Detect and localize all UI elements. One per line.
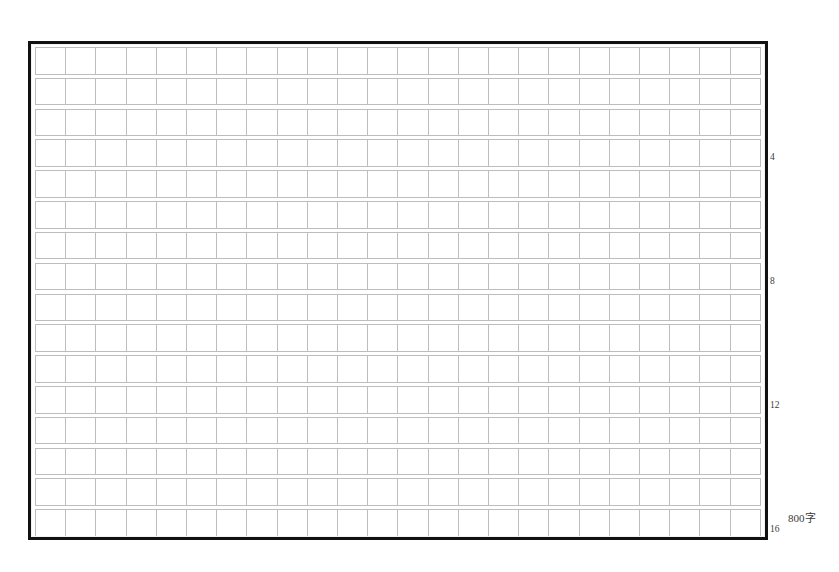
grid-cell[interactable]	[127, 479, 157, 505]
grid-cell[interactable]	[217, 295, 247, 321]
grid-cell[interactable]	[731, 479, 761, 505]
grid-cell[interactable]	[278, 233, 308, 259]
grid-cell[interactable]	[278, 449, 308, 475]
grid-cell[interactable]	[247, 449, 277, 475]
grid-cell[interactable]	[127, 356, 157, 382]
grid-cell[interactable]	[580, 325, 610, 351]
grid-cell[interactable]	[640, 110, 670, 136]
grid-cell[interactable]	[278, 202, 308, 228]
grid-cell[interactable]	[247, 479, 277, 505]
grid-cell[interactable]	[308, 356, 338, 382]
grid-cell[interactable]	[157, 48, 187, 74]
grid-cell[interactable]	[670, 110, 700, 136]
grid-cell[interactable]	[217, 202, 247, 228]
grid-cell[interactable]	[489, 79, 519, 105]
grid-cell[interactable]	[308, 325, 338, 351]
grid-cell[interactable]	[610, 48, 640, 74]
grid-cell[interactable]	[519, 202, 549, 228]
grid-cell[interactable]	[96, 325, 126, 351]
grid-cell[interactable]	[308, 48, 338, 74]
grid-cell[interactable]	[157, 264, 187, 290]
grid-cell[interactable]	[278, 140, 308, 166]
grid-cell[interactable]	[549, 79, 579, 105]
grid-cell[interactable]	[187, 449, 217, 475]
grid-cell[interactable]	[217, 387, 247, 413]
grid-cell[interactable]	[157, 449, 187, 475]
grid-cell[interactable]	[247, 264, 277, 290]
grid-cell[interactable]	[519, 110, 549, 136]
grid-cell[interactable]	[610, 356, 640, 382]
grid-cell[interactable]	[96, 418, 126, 444]
grid-cell[interactable]	[670, 264, 700, 290]
grid-cell[interactable]	[66, 356, 96, 382]
grid-cell[interactable]	[308, 387, 338, 413]
grid-cell[interactable]	[36, 79, 66, 105]
grid-cell[interactable]	[157, 479, 187, 505]
grid-cell[interactable]	[308, 171, 338, 197]
grid-cell[interactable]	[96, 233, 126, 259]
grid-cell[interactable]	[549, 510, 579, 536]
grid-cell[interactable]	[66, 449, 96, 475]
grid-cell[interactable]	[700, 479, 730, 505]
grid-cell[interactable]	[670, 171, 700, 197]
grid-cell[interactable]	[489, 510, 519, 536]
grid-cell[interactable]	[519, 264, 549, 290]
grid-cell[interactable]	[640, 387, 670, 413]
grid-cell[interactable]	[580, 140, 610, 166]
grid-cell[interactable]	[429, 510, 459, 536]
grid-cell[interactable]	[549, 387, 579, 413]
grid-cell[interactable]	[308, 264, 338, 290]
grid-cell[interactable]	[187, 202, 217, 228]
grid-cell[interactable]	[278, 48, 308, 74]
grid-cell[interactable]	[66, 264, 96, 290]
grid-cell[interactable]	[580, 449, 610, 475]
grid-cell[interactable]	[36, 449, 66, 475]
grid-cell[interactable]	[489, 418, 519, 444]
grid-cell[interactable]	[308, 110, 338, 136]
grid-cell[interactable]	[398, 387, 428, 413]
grid-cell[interactable]	[549, 264, 579, 290]
grid-cell[interactable]	[700, 356, 730, 382]
grid-cell[interactable]	[96, 171, 126, 197]
grid-cell[interactable]	[549, 356, 579, 382]
grid-cell[interactable]	[459, 479, 489, 505]
grid-cell[interactable]	[640, 449, 670, 475]
grid-cell[interactable]	[66, 510, 96, 536]
grid-cell[interactable]	[459, 48, 489, 74]
grid-cell[interactable]	[489, 479, 519, 505]
grid-cell[interactable]	[338, 140, 368, 166]
grid-cell[interactable]	[459, 510, 489, 536]
grid-cell[interactable]	[670, 202, 700, 228]
grid-cell[interactable]	[580, 387, 610, 413]
grid-cell[interactable]	[278, 325, 308, 351]
grid-cell[interactable]	[187, 418, 217, 444]
grid-cell[interactable]	[731, 295, 761, 321]
grid-cell[interactable]	[217, 479, 247, 505]
grid-cell[interactable]	[731, 48, 761, 74]
grid-cell[interactable]	[398, 295, 428, 321]
grid-cell[interactable]	[489, 171, 519, 197]
grid-cell[interactable]	[700, 233, 730, 259]
grid-cell[interactable]	[308, 479, 338, 505]
grid-cell[interactable]	[127, 510, 157, 536]
grid-cell[interactable]	[157, 202, 187, 228]
grid-cell[interactable]	[368, 202, 398, 228]
grid-cell[interactable]	[127, 418, 157, 444]
grid-cell[interactable]	[66, 48, 96, 74]
grid-cell[interactable]	[308, 418, 338, 444]
grid-cell[interactable]	[398, 418, 428, 444]
grid-cell[interactable]	[670, 449, 700, 475]
grid-cell[interactable]	[338, 79, 368, 105]
grid-cell[interactable]	[36, 140, 66, 166]
grid-cell[interactable]	[217, 449, 247, 475]
grid-cell[interactable]	[670, 295, 700, 321]
grid-cell[interactable]	[580, 202, 610, 228]
grid-cell[interactable]	[731, 110, 761, 136]
grid-cell[interactable]	[368, 110, 398, 136]
grid-cell[interactable]	[580, 418, 610, 444]
grid-cell[interactable]	[338, 325, 368, 351]
grid-cell[interactable]	[368, 449, 398, 475]
grid-cell[interactable]	[489, 449, 519, 475]
grid-cell[interactable]	[398, 356, 428, 382]
grid-cell[interactable]	[640, 356, 670, 382]
